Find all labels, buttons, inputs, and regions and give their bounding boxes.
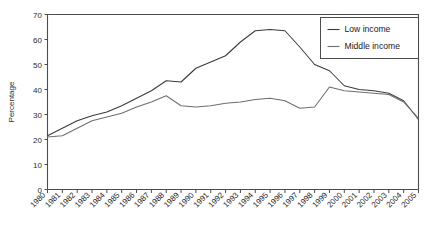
y-tick-label: 40	[33, 86, 42, 95]
x-tick-label: 1992	[207, 190, 226, 209]
y-tick-label: 70	[33, 11, 42, 20]
x-tick-label: 1984	[88, 190, 107, 209]
x-tick-label: 1999	[310, 190, 329, 209]
y-tick-label: 20	[33, 136, 42, 145]
x-tick-label: 1987	[132, 190, 151, 209]
x-tick-label: 1980	[28, 190, 47, 209]
x-tick-label: 2003	[370, 190, 389, 209]
x-tick-label: 1988	[147, 190, 166, 209]
x-tick-label: 1990	[177, 190, 196, 209]
y-axis-title: Percentage	[7, 81, 16, 122]
x-tick-label: 2005	[399, 190, 418, 209]
y-axis-ticks: 010203040506070	[33, 11, 47, 195]
x-tick-label: 2004	[385, 190, 404, 209]
chart-canvas: 010203040506070 198019811982198319841985…	[0, 0, 428, 241]
x-tick-label: 1981	[43, 190, 62, 209]
x-tick-label: 1994	[236, 190, 255, 209]
y-tick-label: 30	[33, 111, 42, 120]
x-tick-label: 1997	[281, 190, 300, 209]
x-tick-label: 1983	[73, 190, 92, 209]
x-tick-label: 1993	[221, 190, 240, 209]
chart-figure: 010203040506070 198019811982198319841985…	[0, 0, 428, 241]
x-tick-label: 2002	[355, 190, 374, 209]
y-tick-label: 50	[33, 61, 42, 70]
x-tick-label: 2001	[340, 190, 359, 209]
x-tick-label: 1996	[266, 190, 285, 209]
x-tick-label: 1985	[103, 190, 122, 209]
legend-label-middle-income: Middle income	[345, 41, 401, 51]
x-tick-label: 1986	[118, 190, 137, 209]
legend-label-low-income: Low income	[345, 24, 391, 34]
x-tick-label: 1998	[296, 190, 315, 209]
x-tick-label: 1991	[192, 190, 211, 209]
x-tick-label: 1982	[58, 190, 77, 209]
chart-legend: Low incomeMiddle income	[321, 18, 419, 59]
y-tick-label: 10	[33, 161, 42, 170]
x-tick-label: 1989	[162, 190, 181, 209]
x-axis-ticks: 1980198119821983198419851986198719881989…	[28, 190, 418, 210]
y-tick-label: 60	[33, 36, 42, 45]
x-tick-label: 2000	[325, 190, 344, 209]
x-tick-label: 1995	[251, 190, 270, 209]
series-line-middle-income	[48, 87, 419, 137]
